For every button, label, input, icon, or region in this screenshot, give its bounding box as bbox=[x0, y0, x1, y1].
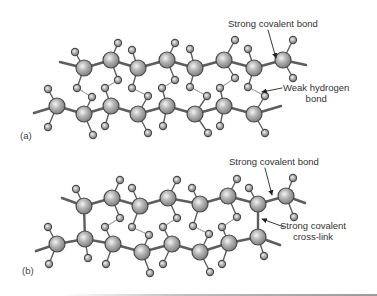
hydrogen-atom-icon bbox=[189, 222, 196, 229]
carbon-atom-icon bbox=[77, 231, 93, 247]
hydrogen-atom-icon bbox=[244, 83, 251, 90]
carbon-atom-icon bbox=[278, 188, 294, 204]
hydrogen-atom-icon bbox=[144, 92, 151, 99]
hydrogen-atom-icon bbox=[289, 36, 296, 43]
hydrogen-atom-icon bbox=[218, 260, 225, 267]
hydrogen-atom-icon bbox=[101, 223, 108, 230]
carbon-atom-icon bbox=[76, 60, 92, 76]
polymer-backbone bbox=[34, 106, 281, 114]
hydrogen-atom-icon bbox=[186, 45, 193, 52]
hydrogen-atom-icon bbox=[261, 129, 268, 136]
polymer-chain-diagram: (a) (b) Strong covalent bond Weak hydrog… bbox=[0, 0, 377, 296]
hydrogen-atom-icon bbox=[116, 214, 123, 221]
hydrogen-atom-icon bbox=[171, 76, 178, 83]
hydrogen-atom-icon bbox=[261, 92, 268, 99]
hydrogen-atom-icon bbox=[71, 48, 78, 55]
hydrogen-atom-icon bbox=[73, 84, 80, 91]
carbon-atom-icon bbox=[246, 60, 262, 76]
carbon-atom-icon bbox=[76, 106, 92, 122]
hydrogen-atom-icon bbox=[44, 85, 51, 92]
hydrogen-atom-icon bbox=[203, 92, 210, 99]
hydrogen-atom-icon bbox=[88, 93, 95, 100]
hydrogen-atom-icon bbox=[216, 122, 223, 129]
hydrogen-atom-icon bbox=[128, 46, 135, 53]
hydrogen-atom-icon bbox=[205, 230, 212, 237]
carbon-atom-icon bbox=[159, 98, 175, 114]
carbon-atom-icon bbox=[160, 190, 176, 206]
hydrogen-atom-icon bbox=[45, 260, 52, 267]
polymer-backbone bbox=[36, 237, 280, 252]
hydrogen-atom-icon bbox=[159, 122, 166, 129]
annotation-arrow-icon bbox=[262, 88, 282, 92]
carbon-atom-icon bbox=[216, 52, 232, 68]
hydrogen-atom-icon bbox=[206, 268, 213, 275]
hydrogen-atom-icon bbox=[128, 184, 135, 191]
hydrogen-atom-icon bbox=[116, 176, 123, 183]
polymer-backbone bbox=[60, 60, 306, 68]
label-strong-covalent-bond-a: Strong covalent bond bbox=[228, 18, 318, 29]
carbon-atom-icon bbox=[221, 235, 237, 251]
polymer-backbone bbox=[62, 196, 305, 206]
panel-label-a: (a) bbox=[20, 130, 32, 141]
annotation-arrow-icon bbox=[265, 168, 272, 195]
carbon-atom-icon bbox=[187, 60, 203, 76]
hydrogen-atom-icon bbox=[89, 131, 96, 138]
carbon-atom-icon bbox=[250, 196, 266, 212]
carbon-atom-icon bbox=[134, 244, 150, 260]
hydrogen-atom-icon bbox=[101, 122, 108, 129]
panel-label-b: (b) bbox=[22, 265, 34, 276]
hydrogen-atom-icon bbox=[173, 214, 180, 221]
carbon-atom-icon bbox=[192, 196, 208, 212]
carbon-atom-icon bbox=[220, 188, 236, 204]
carbon-atom-icon bbox=[250, 229, 266, 245]
hydrogen-atom-icon bbox=[173, 176, 180, 183]
hydrogen-atom-icon bbox=[84, 254, 91, 261]
hydrogen-atom-icon bbox=[159, 223, 166, 230]
hydrogen-atom-icon bbox=[146, 269, 153, 276]
carbon-atom-icon bbox=[159, 52, 175, 68]
carbon-atom-icon bbox=[164, 236, 180, 252]
hydrogen-atom-icon bbox=[231, 74, 238, 81]
label-strong-covalent-cross-link: Strong covalent cross-link bbox=[280, 220, 346, 242]
hydrogen-atom-icon bbox=[289, 174, 296, 181]
carbon-atom-icon bbox=[49, 98, 65, 114]
hydrogen-atom-icon bbox=[101, 84, 108, 91]
hydrogen-atom-icon bbox=[260, 252, 267, 259]
hydrogen-atom-icon bbox=[128, 223, 135, 230]
hydrogen-atom-icon bbox=[114, 39, 121, 46]
hydrogen-atom-icon bbox=[114, 76, 121, 83]
hydrogen-atom-icon bbox=[128, 84, 135, 91]
hydrogen-atom-icon bbox=[145, 231, 152, 238]
hydrogen-atom-icon bbox=[244, 45, 251, 52]
hydrogen-atom-icon bbox=[245, 184, 252, 191]
label-weak-hydrogen-bond: Weak hydrogen bond bbox=[283, 82, 349, 104]
carbon-atom-icon bbox=[130, 106, 146, 122]
molecular-structure-canvas bbox=[0, 0, 377, 296]
hydrogen-atom-icon bbox=[72, 185, 79, 192]
carbon-atom-icon bbox=[105, 236, 121, 252]
carbon-atom-icon bbox=[132, 198, 148, 214]
hydrogen-atom-icon bbox=[188, 184, 195, 191]
carbon-atom-icon bbox=[103, 98, 119, 114]
carbon-atom-icon bbox=[49, 236, 65, 252]
hydrogen-atom-icon bbox=[233, 213, 240, 220]
label-strong-covalent-bond-b: Strong covalent bond bbox=[229, 156, 319, 167]
hydrogen-atom-icon bbox=[216, 84, 223, 91]
hydrogen-atom-icon bbox=[158, 84, 165, 91]
hydrogen-atom-icon bbox=[231, 36, 238, 43]
hydrogen-atom-icon bbox=[144, 129, 151, 136]
carbon-atom-icon bbox=[192, 244, 208, 260]
hydrogen-atom-icon bbox=[44, 223, 51, 230]
hydrogen-atom-icon bbox=[186, 83, 193, 90]
hydrogen-atom-icon bbox=[233, 175, 240, 182]
carbon-atom-icon bbox=[76, 198, 92, 214]
hydrogen-atom-icon bbox=[218, 223, 225, 230]
carbon-atom-icon bbox=[104, 190, 120, 206]
hydrogen-atom-icon bbox=[204, 129, 211, 136]
hydrogen-atom-icon bbox=[44, 123, 51, 130]
carbon-atom-icon bbox=[275, 52, 291, 68]
carbon-atom-icon bbox=[246, 106, 262, 122]
carbon-atom-icon bbox=[103, 52, 119, 68]
hydrogen-atom-icon bbox=[102, 260, 109, 267]
carbon-atom-icon bbox=[187, 106, 203, 122]
